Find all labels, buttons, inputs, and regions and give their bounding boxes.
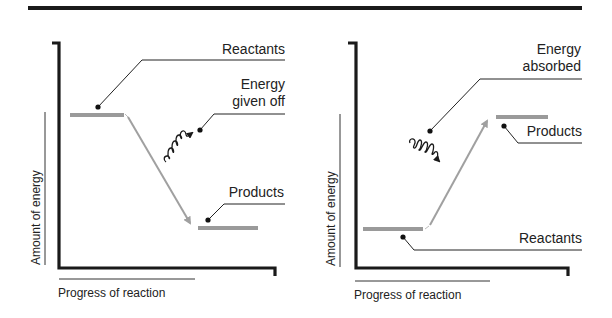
reactants-level <box>70 113 124 117</box>
x-axis-label: Progress of reaction <box>58 286 165 300</box>
products-level <box>496 115 548 119</box>
x-axis-label: Progress of reaction <box>354 288 461 302</box>
endothermic-panel: Amount of energy Progress of reaction En… <box>324 41 582 302</box>
top-rule <box>28 6 582 10</box>
energy-rise-arrow <box>430 121 487 225</box>
y-axis-label: Amount of energy <box>324 171 338 266</box>
reactants-label: Reactants <box>222 41 285 57</box>
products-label: Products <box>527 123 582 139</box>
energy-label-line1: Energy <box>537 41 581 57</box>
energy-leader <box>200 114 285 130</box>
products-level <box>198 226 258 230</box>
exothermic-panel: Amount of energy Progress of reaction Re… <box>29 41 285 300</box>
y-axis-label: Amount of energy <box>29 170 43 265</box>
energy-label-line1: Energy <box>241 76 285 92</box>
energy-label-line2: given off <box>232 93 285 109</box>
energy-wave-icon <box>164 131 192 162</box>
energy-label-line2: absorbed <box>523 58 581 74</box>
products-label: Products <box>229 184 284 200</box>
reactants-level <box>363 227 423 231</box>
energy-wave-icon <box>410 139 439 161</box>
reactants-label: Reactants <box>519 230 582 246</box>
products-leader <box>208 204 285 220</box>
energy-diagrams-figure: Amount of energy Progress of reaction Re… <box>0 0 612 318</box>
